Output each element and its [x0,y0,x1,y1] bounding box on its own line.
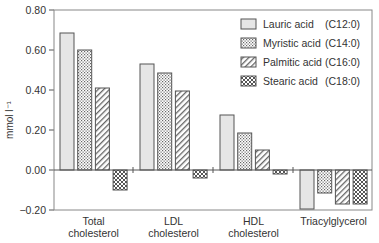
x-category-label: cholesterol [68,227,119,239]
bar-stearic-acid [353,170,367,204]
legend-label: Stearic acid [263,75,318,87]
y-axis-label: mmol l⁻¹ [4,100,15,138]
bar-myristic-acid [158,73,172,170]
legend-swatch [241,38,256,48]
bar-myristic-acid [318,170,332,193]
legend-code: (C18:0) [325,75,360,87]
y-tick-label: 0.80 [26,4,47,16]
legend-code: (C14:0) [325,37,360,49]
bar-palmitic-acid [255,150,269,170]
bar-lauric-acid [300,170,314,209]
x-category-label: cholesterol [148,227,199,239]
bar-palmitic-acid [335,170,349,204]
legend-code: (C12:0) [325,18,360,30]
y-tick-label: 0.00 [26,164,47,176]
x-category-label: LDL [164,215,183,227]
x-axis-labels: TotalcholesterolLDLcholesterolHDLcholest… [68,215,367,239]
x-category-label: Triacylglycerol [300,215,367,227]
legend-code: (C16:0) [325,56,360,68]
bar-palmitic-acid [95,88,109,170]
bar-stearic-acid [273,170,287,174]
bar-lauric-acid [140,64,154,170]
legend-swatch [241,57,256,67]
bar-stearic-acid [193,170,207,178]
bar-lauric-acid [60,33,74,170]
bar-palmitic-acid [175,91,189,170]
chart-container: 0.800.600.400.200.00−0.20 Totalcholester… [0,0,379,243]
y-tick-label: −0.20 [19,204,46,216]
x-category-label: HDL [243,215,264,227]
bar-stearic-acid [113,170,127,190]
y-tick-label: 0.60 [26,44,47,56]
y-tick-label: 0.40 [26,84,47,96]
bar-lauric-acid [220,115,234,170]
bar-myristic-acid [78,50,92,170]
bar-myristic-acid [238,133,252,170]
x-category-label: cholesterol [228,227,279,239]
legend-swatch [241,76,256,86]
legend: Lauric acid(C12:0)Myristic acid(C14:0)Pa… [241,18,360,87]
y-axis: 0.800.600.400.200.00−0.20 [19,4,54,216]
legend-label: Lauric acid [263,18,314,30]
y-tick-label: 0.20 [26,124,47,136]
legend-label: Palmitic acid [263,56,322,68]
legend-swatch [241,19,256,29]
x-category-label: Total [82,215,104,227]
bar-chart: 0.800.600.400.200.00−0.20 Totalcholester… [0,0,379,243]
legend-label: Myristic acid [263,37,321,49]
